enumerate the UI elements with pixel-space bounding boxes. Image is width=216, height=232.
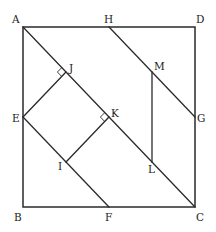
label-C: C: [196, 211, 204, 223]
label-E: E: [12, 112, 20, 124]
label-K: K: [111, 107, 119, 119]
diagram-svg: A H D E G B F C J K I M L: [0, 0, 216, 232]
label-H: H: [104, 13, 113, 25]
label-J: J: [68, 62, 73, 74]
geometry-diagram: A H D E G B F C J K I M L: [0, 0, 216, 232]
label-D: D: [196, 13, 204, 25]
label-I: I: [58, 160, 62, 172]
label-A: A: [11, 13, 20, 25]
label-M: M: [154, 60, 165, 72]
segment-EJ: [23, 72, 66, 117]
label-L: L: [148, 163, 155, 175]
segment-KI: [66, 117, 109, 162]
right-angle-J-marker: [57, 68, 66, 77]
right-angle-K-marker: [100, 113, 109, 122]
label-B: B: [14, 211, 22, 223]
label-F: F: [105, 211, 112, 223]
label-G: G: [197, 112, 205, 124]
